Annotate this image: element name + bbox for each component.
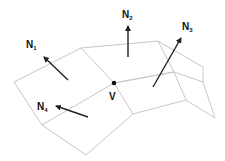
vertex-point — [112, 81, 117, 86]
vertex-label: V — [109, 92, 116, 102]
label-n2-sub: 2 — [129, 15, 132, 21]
label-n3: N3 — [182, 22, 193, 33]
label-n4-sub: 4 — [44, 107, 47, 113]
label-n4: N4 — [37, 102, 48, 113]
label-n1-sub: 1 — [33, 45, 36, 51]
label-n3-sub: 3 — [189, 27, 192, 33]
label-n2: N2 — [122, 10, 133, 21]
label-n1: N1 — [26, 40, 37, 51]
normal-arrows — [44, 26, 181, 117]
